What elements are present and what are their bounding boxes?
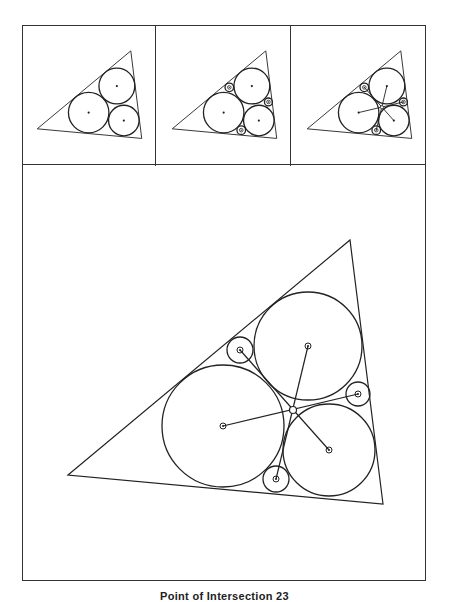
intersection-point — [380, 106, 383, 109]
center-dot — [364, 87, 365, 88]
center-dot — [258, 119, 260, 121]
panel-main-figure — [22, 165, 426, 581]
center-dot — [222, 425, 224, 427]
center-dot — [268, 101, 269, 102]
panel-step-3 — [292, 26, 426, 165]
center-dot — [275, 478, 277, 480]
center-dot — [403, 101, 404, 102]
center-dot — [123, 119, 125, 121]
triangle — [307, 51, 411, 139]
center-dot — [376, 129, 377, 130]
center-dot — [241, 129, 242, 130]
center-dot — [393, 119, 395, 121]
center-dot — [357, 393, 359, 395]
center-dot — [88, 111, 90, 113]
panel-step-1 — [22, 26, 156, 165]
center-dot — [116, 85, 118, 87]
panel-step-2 — [157, 26, 291, 165]
center-dot — [251, 85, 253, 87]
center-dot — [358, 111, 360, 113]
geometry-figure — [22, 26, 156, 164]
center-dot — [307, 345, 309, 347]
geometry-figure — [157, 26, 291, 164]
figure-caption: Point of Intersection 23 — [0, 590, 449, 602]
center-dot — [386, 85, 388, 87]
center-dot — [223, 111, 225, 113]
triangle — [172, 51, 276, 139]
geometry-figure — [292, 26, 426, 164]
geometry-figure — [22, 165, 426, 581]
center-dot — [328, 449, 330, 451]
center-dot — [229, 87, 230, 88]
center-dot — [239, 349, 241, 351]
triangle — [68, 240, 383, 504]
triangle — [37, 51, 141, 139]
intersection-point — [290, 407, 297, 414]
